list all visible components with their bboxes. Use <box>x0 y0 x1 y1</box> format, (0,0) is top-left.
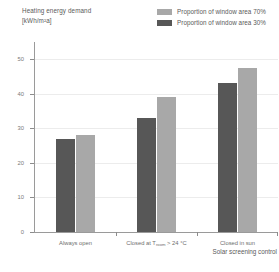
bar-2-30 <box>218 83 237 232</box>
y-tick-label-0: 0 <box>21 229 24 235</box>
y-axis-title-line1: Heating energy demand <box>22 6 91 16</box>
bar-0-30 <box>56 139 75 232</box>
bar-1-30 <box>137 118 156 232</box>
chart-legend: Proportion of window area 70% Proportion… <box>157 7 266 29</box>
chart-figure: Heating energy demand [kWh/m²a] Proporti… <box>0 0 279 272</box>
legend-swatch-icon-1 <box>157 20 172 26</box>
x-axis-divider-2 <box>197 232 198 236</box>
y-axis-title-line2: [kWh/m²a] <box>22 16 91 26</box>
bar-1-70 <box>157 97 176 232</box>
y-tick-label-10: 10 <box>18 194 24 200</box>
category-label-2: Closed in sun <box>220 240 255 246</box>
y-tick-label-20: 20 <box>18 160 24 166</box>
legend-item-1: Proportion of window area 30% <box>157 18 266 28</box>
legend-label-0: Proportion of window area 70% <box>177 7 266 17</box>
y-tick-10 <box>30 197 34 198</box>
legend-item-0: Proportion of window area 70% <box>157 7 266 17</box>
legend-label-1: Proportion of window area 30% <box>177 18 266 28</box>
y-tick-20 <box>30 163 34 164</box>
bar-2-70 <box>238 68 257 232</box>
y-tick-0 <box>30 232 34 233</box>
x-axis-divider-1 <box>116 232 117 236</box>
y-tick-label-50: 50 <box>18 56 24 62</box>
bar-0-70 <box>76 135 95 232</box>
page-title: Heating energy demand [kWh/m²a] <box>22 6 91 25</box>
y-tick-40 <box>30 94 34 95</box>
x-axis-divider-end <box>277 232 278 236</box>
category-label-1: Closed at Troom > 24 °C <box>126 240 186 246</box>
y-tick-30 <box>30 128 34 129</box>
category-label-0: Always open <box>59 240 92 246</box>
x-axis-line <box>34 232 278 233</box>
y-tick-50 <box>30 59 34 60</box>
y-tick-label-30: 30 <box>18 125 24 131</box>
y-tick-label-40: 40 <box>18 91 24 97</box>
plot-area: 01020304050 Always openClosed at Troom >… <box>34 42 278 232</box>
x-axis-caption: Solar screening control <box>213 248 277 255</box>
bars-layer <box>35 42 278 232</box>
legend-swatch-icon-0 <box>157 9 172 15</box>
category-label-subscript-1: room <box>156 242 166 247</box>
